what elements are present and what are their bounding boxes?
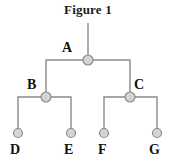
- edge-a-c: [88, 60, 130, 97]
- edge-b-d: [18, 97, 46, 133]
- tree-node-a[interactable]: [83, 55, 93, 65]
- tree-node-d[interactable]: [14, 129, 23, 138]
- tree-node-c[interactable]: [125, 92, 135, 102]
- node-label-g: G: [149, 143, 160, 157]
- node-label-e: E: [64, 143, 73, 157]
- figure-canvas: Figure 1 A B C D: [0, 0, 176, 161]
- edge-b-e: [46, 97, 71, 133]
- tree-node-b[interactable]: [41, 92, 51, 102]
- edge-a-b: [46, 60, 88, 97]
- node-label-a: A: [62, 41, 72, 55]
- node-label-f: F: [98, 143, 107, 157]
- edge-c-g: [130, 97, 157, 133]
- tree-node-f[interactable]: [100, 129, 109, 138]
- node-label-d: D: [10, 143, 20, 157]
- node-label-b: B: [27, 78, 36, 92]
- tree-node-e[interactable]: [67, 129, 76, 138]
- tree-node-g[interactable]: [153, 129, 162, 138]
- node-label-c: C: [134, 78, 144, 92]
- edge-c-f: [104, 97, 130, 133]
